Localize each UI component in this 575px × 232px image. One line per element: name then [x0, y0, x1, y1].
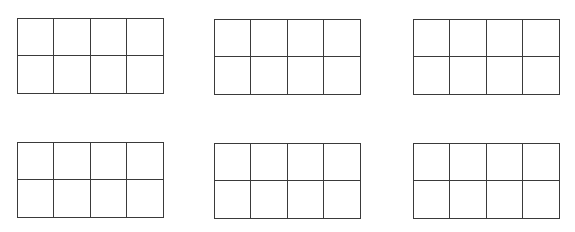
grid-cell	[91, 143, 127, 180]
grid-cell	[288, 57, 324, 94]
empty-grid-2	[214, 19, 361, 95]
grid-cell	[523, 57, 559, 94]
grid-cell	[215, 20, 251, 57]
grid-cell	[215, 181, 251, 218]
grid-cell	[54, 180, 90, 217]
grid-cell	[450, 144, 486, 181]
grid-cell	[414, 181, 450, 218]
grid-cell	[288, 181, 324, 218]
grid-cell	[324, 181, 360, 218]
grid-cell	[288, 20, 324, 57]
grid-cell	[414, 57, 450, 94]
grid-cell	[324, 144, 360, 181]
grid-cell	[414, 20, 450, 57]
grid-cell	[18, 56, 54, 93]
grid-cell	[54, 19, 90, 56]
grid-cell	[127, 19, 163, 56]
empty-grid-3	[413, 19, 560, 95]
grid-cell	[18, 19, 54, 56]
grid-cell	[127, 56, 163, 93]
empty-grid-4	[17, 142, 164, 218]
grid-cell	[54, 56, 90, 93]
grid-cell	[523, 181, 559, 218]
grid-cell	[450, 20, 486, 57]
grid-cell	[127, 143, 163, 180]
grid-cell	[414, 144, 450, 181]
grid-cell	[215, 57, 251, 94]
grid-cell	[215, 144, 251, 181]
grid-cell	[91, 56, 127, 93]
grid-cell	[450, 181, 486, 218]
grid-cell	[487, 181, 523, 218]
grid-cell	[18, 180, 54, 217]
grid-cell	[251, 144, 287, 181]
empty-grid-6	[413, 143, 560, 219]
grid-cell	[324, 20, 360, 57]
grid-cell	[288, 144, 324, 181]
grid-cell	[251, 20, 287, 57]
grid-cell	[450, 57, 486, 94]
grid-cell	[487, 57, 523, 94]
grid-cell	[487, 20, 523, 57]
grid-cell	[324, 57, 360, 94]
empty-grid-1	[17, 18, 164, 94]
grid-cell	[54, 143, 90, 180]
grid-cell	[91, 19, 127, 56]
grid-cell	[251, 57, 287, 94]
grid-cell	[523, 20, 559, 57]
empty-grid-5	[214, 143, 361, 219]
grid-cell	[251, 181, 287, 218]
grid-cell	[487, 144, 523, 181]
grid-cell	[127, 180, 163, 217]
grid-cell	[91, 180, 127, 217]
grid-cell	[18, 143, 54, 180]
grid-cell	[523, 144, 559, 181]
